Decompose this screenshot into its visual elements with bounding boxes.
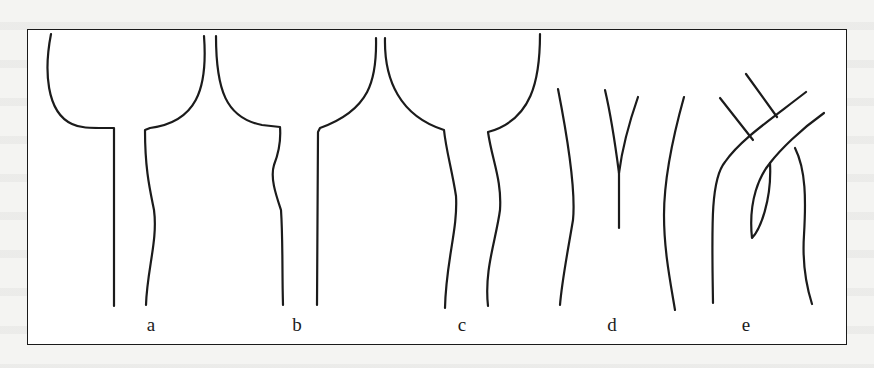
panel-c: c [458, 34, 540, 335]
panel-d-left-wall [558, 89, 574, 305]
panel-e-main-crossbar [712, 92, 806, 303]
panel-b-left-lobe [216, 36, 283, 305]
panel-e-upper-branch-2 [746, 74, 777, 117]
panel-a: a [48, 34, 283, 335]
figure-diagram: a b c d e [0, 0, 874, 368]
panel-b-right-wall [385, 38, 456, 308]
panel-e-second-crossbar [770, 113, 824, 163]
panel-c-left-wall [487, 34, 540, 306]
panel-a-right-wall [145, 36, 205, 305]
panel-e-upper-branch-1 [720, 98, 753, 140]
panel-d: d [558, 89, 684, 335]
panel-a-label: a [147, 314, 156, 335]
panel-d-branch-left [605, 90, 619, 173]
panel-d-right-wall [664, 97, 684, 310]
panel-e-right-stem [795, 148, 812, 304]
panel-a-left-wall [48, 34, 114, 306]
panel-e-label: e [742, 314, 750, 335]
panel-d-branch-right [619, 97, 638, 173]
panel-b: b [292, 38, 456, 335]
panel-b-left-wall [317, 38, 376, 305]
panel-e: e [712, 74, 824, 335]
panel-b-label: b [292, 314, 302, 335]
panel-d-label: d [607, 314, 617, 335]
panel-c-label: c [458, 314, 466, 335]
panel-e-loop [751, 163, 770, 238]
